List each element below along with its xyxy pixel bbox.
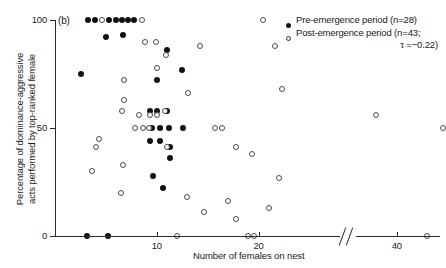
legend-tau-value: τ =−0.22): [286, 39, 438, 52]
data-point: [118, 190, 124, 196]
x-tick-40: [397, 232, 398, 236]
data-point: [154, 112, 160, 118]
data-point: [99, 17, 105, 23]
data-point: [142, 39, 148, 45]
data-point: [146, 125, 152, 131]
data-point: [440, 125, 446, 131]
data-point: [212, 125, 218, 131]
data-point: [121, 77, 127, 83]
data-point: [162, 108, 168, 114]
data-point: [119, 17, 125, 23]
y-axis-line: [55, 20, 56, 237]
data-point: [233, 144, 239, 150]
data-point: [147, 112, 153, 118]
data-point: [154, 65, 160, 71]
data-point: [233, 216, 239, 222]
data-point: [154, 77, 160, 83]
data-point: [163, 52, 169, 58]
data-point: [185, 90, 191, 96]
data-point: [180, 125, 186, 131]
data-point: [160, 185, 166, 191]
data-point: [106, 17, 112, 23]
plot-legend: Pre-emergence period (n=28) Post-emergen…: [286, 14, 438, 52]
data-point: [179, 67, 185, 73]
data-point: [121, 97, 127, 103]
data-point: [157, 125, 163, 131]
legend-label-pre-emergence: Pre-emergence period (n=28): [296, 14, 417, 25]
data-point: [260, 17, 266, 23]
data-point: [166, 125, 172, 131]
data-point: [139, 17, 145, 23]
data-point: [125, 17, 131, 23]
data-point: [225, 198, 231, 204]
data-point: [89, 168, 95, 174]
x-axis-label: Number of females on nest: [193, 250, 305, 261]
data-point: [153, 39, 159, 45]
x-tick-10: [157, 232, 158, 236]
data-point: [120, 32, 126, 38]
legend-item-post-emergence: Post-emergence period (n=43;: [286, 27, 438, 40]
y-tick-label-50: 50: [0, 122, 47, 133]
x-tick-20: [259, 232, 260, 236]
data-point: [266, 205, 272, 211]
data-point: [219, 125, 225, 131]
data-point: [197, 43, 203, 49]
y-tick-label-100: 100: [0, 14, 47, 25]
y-tick-100: [50, 20, 55, 21]
data-point: [249, 151, 255, 157]
data-point: [373, 112, 379, 118]
x-axis-line-left: [55, 236, 340, 237]
data-point: [78, 71, 84, 77]
data-point: [140, 125, 146, 131]
x-tick-label-20: 20: [247, 240, 271, 251]
axis-break-slash-2: [346, 227, 353, 245]
data-point: [132, 125, 138, 131]
data-point: [85, 17, 91, 23]
data-point: [113, 17, 119, 23]
panel-label: (b): [58, 15, 70, 26]
x-axis-line-right: [356, 236, 440, 237]
x-tick-label-10: 10: [145, 240, 169, 251]
data-point: [272, 43, 278, 49]
data-point: [150, 173, 156, 179]
data-point: [147, 138, 153, 144]
data-point: [92, 17, 98, 23]
data-point: [136, 112, 142, 118]
open-circle-marker-icon: [286, 32, 291, 45]
x-tick-label-40: 40: [385, 240, 409, 251]
legend-label-post-emergence: Post-emergence period (n=43;: [296, 27, 420, 38]
data-point: [93, 144, 99, 150]
data-point: [184, 194, 190, 200]
data-point: [157, 138, 163, 144]
data-point: [103, 34, 109, 40]
y-tick-label-0: 0: [0, 230, 47, 241]
data-point: [96, 136, 102, 142]
y-tick-0: [50, 236, 55, 237]
data-point: [120, 162, 126, 168]
data-point: [167, 155, 173, 161]
data-point: [276, 175, 282, 181]
legend-item-pre-emergence: Pre-emergence period (n=28): [286, 14, 438, 27]
data-point: [119, 108, 125, 114]
data-point: [201, 209, 207, 215]
data-point: [279, 86, 285, 92]
data-point: [131, 17, 137, 23]
y-tick-50: [50, 128, 55, 129]
